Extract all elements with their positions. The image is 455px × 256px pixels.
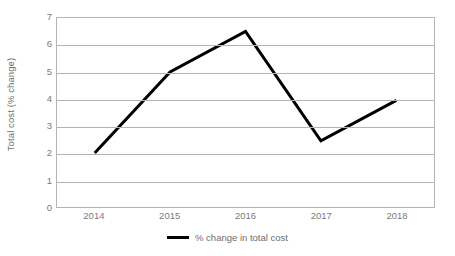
x-axis-tick-label: 2014	[83, 210, 104, 221]
legend-line-swatch-icon	[167, 236, 189, 239]
x-axis-tick-label: 2018	[387, 210, 408, 221]
gridline	[57, 182, 434, 183]
x-axis-tick-label: 2016	[235, 210, 256, 221]
y-axis-tick-label: 1	[26, 176, 52, 186]
y-axis-tick-label: 0	[26, 203, 52, 213]
plot-area	[56, 17, 435, 208]
chart-legend: % change in total cost	[0, 232, 455, 243]
y-axis-tick-label: 2	[26, 149, 52, 159]
y-axis-tick-label: 3	[26, 121, 52, 131]
y-axis-title: Total cost (% change)	[0, 0, 22, 208]
x-axis-tick-label: 2017	[311, 210, 332, 221]
x-axis-tick-label: 2015	[159, 210, 180, 221]
y-axis-tick-label: 5	[26, 67, 52, 77]
series-line-layer	[57, 18, 434, 207]
gridline	[57, 127, 434, 128]
y-axis-tick-labels: 01234567	[22, 0, 52, 256]
gridline	[57, 100, 434, 101]
gridline	[57, 154, 434, 155]
y-axis-tick-label: 7	[26, 12, 52, 22]
y-axis-title-text: Total cost (% change)	[6, 57, 17, 150]
series-line	[95, 32, 397, 154]
gridline	[57, 73, 434, 74]
gridline	[57, 45, 434, 46]
y-axis-tick-label: 6	[26, 40, 52, 50]
y-axis-tick-label: 4	[26, 94, 52, 104]
x-axis-tick-labels: 20142015201620172018	[56, 210, 435, 226]
line-chart: Total cost (% change) 01234567 201420152…	[0, 0, 455, 256]
legend-label: % change in total cost	[195, 232, 288, 243]
